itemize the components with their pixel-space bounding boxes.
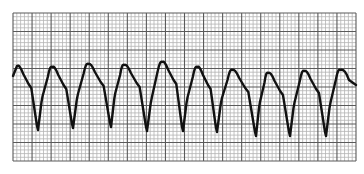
ecg-rhythm-strip [0,0,364,174]
